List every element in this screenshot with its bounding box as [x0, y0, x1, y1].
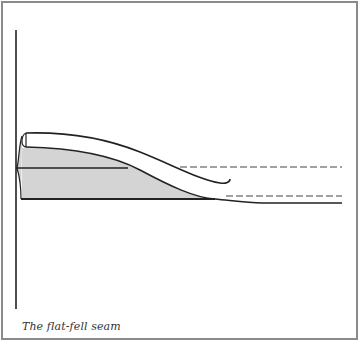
figure-caption: The flat-fell seam	[22, 320, 121, 333]
flat-fell-seam-diagram	[0, 0, 362, 348]
fold-roll	[22, 133, 26, 147]
